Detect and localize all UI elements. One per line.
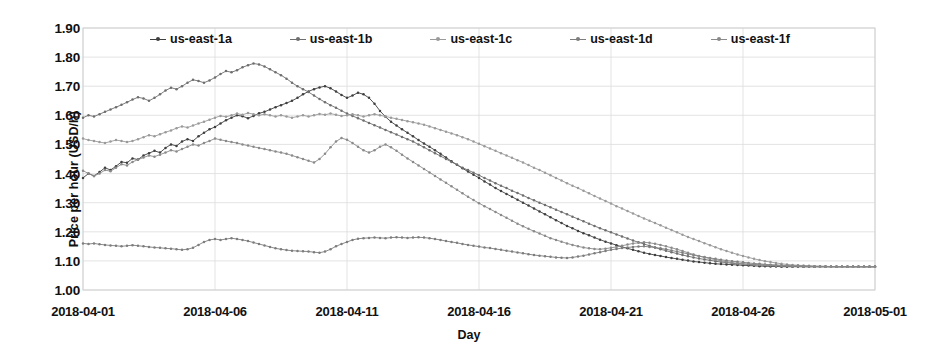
data-point-marker <box>577 245 580 248</box>
data-point-marker <box>813 265 816 268</box>
data-point-marker <box>698 255 701 258</box>
data-point-marker <box>417 236 420 239</box>
data-point-marker <box>665 256 668 259</box>
data-point-marker <box>604 229 607 232</box>
data-point-marker <box>340 137 343 140</box>
data-point-marker <box>395 236 398 239</box>
data-point-marker <box>687 251 690 254</box>
data-point-marker <box>588 222 591 225</box>
data-point-marker <box>588 253 591 256</box>
data-point-marker <box>423 123 426 126</box>
data-point-marker <box>368 114 371 117</box>
data-point-marker <box>643 251 646 254</box>
data-point-marker <box>659 255 662 258</box>
data-point-marker <box>560 222 563 225</box>
data-point-marker <box>505 217 508 220</box>
data-point-marker <box>148 154 151 157</box>
data-point-marker <box>197 122 200 125</box>
data-point-marker <box>472 245 475 248</box>
data-point-marker <box>175 145 178 148</box>
data-point-marker <box>450 132 453 135</box>
data-point-marker <box>236 69 239 72</box>
data-point-marker <box>571 244 574 247</box>
data-point-marker <box>324 101 327 104</box>
data-point-marker <box>263 65 266 68</box>
data-point-marker <box>489 208 492 211</box>
x-axis-tick-label: 2018-04-11 <box>316 304 379 319</box>
data-point-marker <box>148 246 151 249</box>
legend-item-us-east-1a[interactable]: us-east-1a <box>150 32 232 46</box>
x-axis-tick-label: 2018-04-16 <box>447 304 511 319</box>
data-point-marker <box>582 246 585 249</box>
data-point-marker <box>104 244 107 247</box>
data-point-marker <box>516 159 519 162</box>
data-point-marker <box>555 208 558 211</box>
data-point-marker <box>214 76 217 79</box>
data-point-marker <box>692 238 695 241</box>
data-point-marker <box>555 177 558 180</box>
data-point-marker <box>357 114 360 117</box>
legend-item-us-east-1f[interactable]: us-east-1f <box>711 32 790 46</box>
data-point-marker <box>511 196 514 199</box>
data-point-marker <box>252 62 255 65</box>
data-point-marker <box>219 73 222 76</box>
data-point-marker <box>566 225 569 228</box>
data-point-marker <box>830 265 833 268</box>
data-point-marker <box>82 177 85 180</box>
x-axis-tick-label: 2018-04-21 <box>579 304 643 319</box>
data-point-marker <box>511 219 514 222</box>
legend-item-us-east-1b[interactable]: us-east-1b <box>290 32 373 46</box>
data-point-marker <box>192 140 195 143</box>
data-point-marker <box>236 112 239 115</box>
data-point-marker <box>126 101 129 104</box>
data-point-marker <box>478 245 481 248</box>
data-point-marker <box>247 117 250 120</box>
data-point-marker <box>483 177 486 180</box>
data-point-marker <box>362 119 365 122</box>
data-point-marker <box>500 185 503 188</box>
data-point-marker <box>593 225 596 228</box>
data-point-marker <box>538 169 541 172</box>
data-point-marker <box>258 243 261 246</box>
data-point-marker <box>280 74 283 77</box>
data-point-marker <box>731 261 734 264</box>
data-point-marker <box>373 149 376 152</box>
data-point-marker <box>208 128 211 131</box>
data-point-marker <box>335 90 338 93</box>
data-point-marker <box>808 265 811 268</box>
data-point-marker <box>181 249 184 252</box>
data-point-marker <box>758 263 761 266</box>
data-point-marker <box>522 225 525 228</box>
data-point-marker <box>643 245 646 248</box>
data-point-marker <box>698 257 701 260</box>
data-point-marker <box>599 227 602 230</box>
data-point-marker <box>654 242 657 245</box>
data-point-marker <box>115 245 118 248</box>
data-point-marker <box>659 247 662 250</box>
data-point-marker <box>236 238 239 241</box>
data-point-marker <box>351 94 354 97</box>
data-point-marker <box>549 256 552 259</box>
data-point-marker <box>494 211 497 214</box>
data-point-marker <box>544 204 547 207</box>
data-point-marker <box>357 117 360 120</box>
data-point-marker <box>571 185 574 188</box>
data-point-marker <box>643 241 646 244</box>
data-point-marker <box>401 128 404 131</box>
data-point-marker <box>159 153 162 156</box>
legend-item-us-east-1d[interactable]: us-east-1d <box>570 32 653 46</box>
legend-item-us-east-1c[interactable]: us-east-1c <box>430 32 512 46</box>
data-point-marker <box>615 246 618 249</box>
data-point-marker <box>153 246 156 249</box>
data-point-marker <box>186 248 189 251</box>
x-axis-tick-label: 2018-04-26 <box>711 304 775 319</box>
data-point-marker <box>126 245 129 248</box>
data-point-marker <box>527 228 530 231</box>
data-point-marker <box>192 143 195 146</box>
data-point-marker <box>214 126 217 129</box>
data-point-marker <box>109 108 112 111</box>
data-point-marker <box>769 264 772 267</box>
data-point-marker <box>230 141 233 144</box>
data-point-marker <box>456 164 459 167</box>
data-point-marker <box>269 114 272 117</box>
